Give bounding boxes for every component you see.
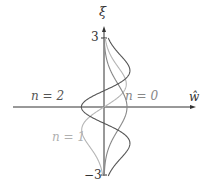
tick-label-bottom: −3 xyxy=(84,168,102,182)
curve-label-n2: n = 2 xyxy=(31,89,64,103)
vertical-axis-label: ξ xyxy=(99,4,106,19)
arrow-up-icon xyxy=(102,26,106,32)
tick-label-top: 3 xyxy=(91,30,99,44)
arrow-right-icon xyxy=(190,105,196,109)
curve-label-n0: n = 0 xyxy=(125,89,158,103)
horizontal-axis-label: ŵ xyxy=(189,90,199,104)
curve-label-n1: n = 1 xyxy=(52,130,85,144)
